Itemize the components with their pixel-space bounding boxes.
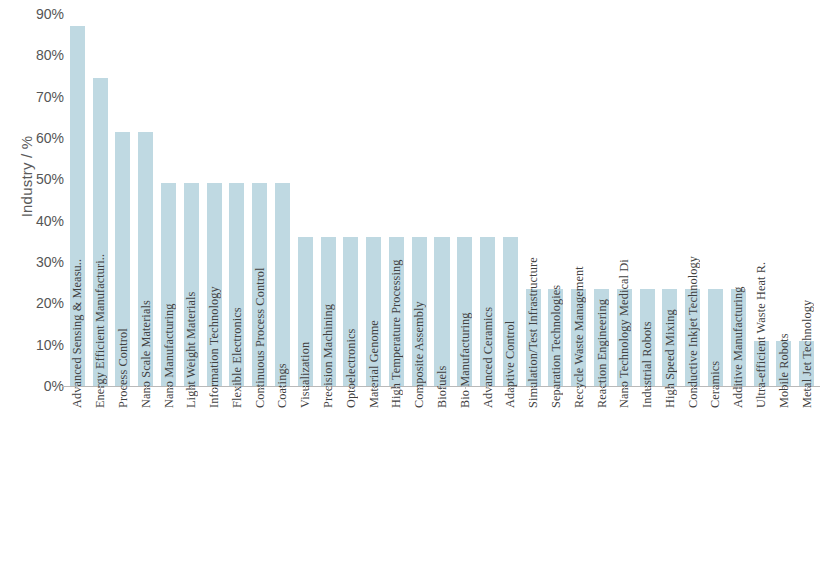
bar [275,183,290,386]
x-axis-tick-label: Visualization [297,392,313,408]
x-axis-tick-label: Recycle Waste Management [571,392,587,408]
bar-chart: Industry / % 90%80%70%60%50%40%30%20%10%… [0,0,824,566]
y-axis-tick-label: 80% [36,47,64,63]
x-axis-tick-label: Advanced Sensing & Measu.. [69,392,85,408]
x-axis-tick-mark [282,386,283,389]
x-axis-tick-mark [77,386,78,389]
y-axis-tick-label: 90% [36,6,64,22]
x-axis-tick-mark [761,386,762,389]
x-axis-tick-label: Continuous Process Control [252,392,268,408]
x-axis-tick-label: Biofuels [434,392,450,408]
x-axis-tick-mark [488,386,489,389]
x-axis-tick-label: Simulation/Test Infrastructure [525,392,541,408]
bar-series [66,14,818,386]
x-axis-tick-mark [169,386,170,389]
x-axis-tick-mark [807,386,808,389]
x-axis-tick-label: Bio Manufacturing [457,392,473,408]
x-axis-tick-label: Coatings [274,392,290,408]
x-axis-tick-mark [465,386,466,389]
x-axis-tick-label: Reaction Engineering [594,392,610,408]
x-axis-tick-label: Advanced Ceramics [480,392,496,408]
x-axis-tick-mark [556,386,557,389]
x-axis-tick-label: Metal Jet Technology [799,392,815,408]
x-axis-tick-label: Precision Machining [320,392,336,408]
x-axis-tick-label: Flexible Electronics [229,392,245,408]
x-axis-tick-label: Optoelectronics [343,392,359,408]
x-axis-tick-label: High Speed Mixing [662,392,678,408]
x-axis-tick-mark [260,386,261,389]
x-axis-tick-mark [191,386,192,389]
y-axis-tick-label: 60% [36,130,64,146]
y-axis-tick-label: 70% [36,89,64,105]
x-axis-tick-label: Industrial Robots [639,392,655,408]
x-axis-tick-label: Mobile Robots [776,392,792,408]
x-axis-tick-label: Additive Manufacturing [730,392,746,408]
x-axis-tick-mark [374,386,375,389]
x-axis-tick-mark [328,386,329,389]
x-axis-tick-label: Adaptive Control [502,392,518,408]
x-axis-tick-mark [693,386,694,389]
x-axis-tick-mark [579,386,580,389]
x-axis-tick-label: Nano Technology Medical Di [616,392,632,408]
x-axis-tick-mark [624,386,625,389]
x-axis-tick-mark [602,386,603,389]
y-axis-tick-label: 0% [44,378,64,394]
x-axis-tick-mark [533,386,534,389]
x-axis-tick-mark [419,386,420,389]
x-axis-tick-mark [738,386,739,389]
x-axis-tick-label: High Temperature Processing [388,392,404,408]
x-axis-tick-mark [396,386,397,389]
y-axis-tick-label: 30% [36,254,64,270]
x-axis-tick-mark [146,386,147,389]
y-axis-tick-label: 20% [36,295,64,311]
bar [434,237,449,386]
x-axis-tick-mark [442,386,443,389]
x-axis-tick-label: Energy Efficient Manufacturi.. [92,392,108,408]
x-axis-tick-label: Nano Scale Materials [138,392,154,408]
x-axis-tick-label: Process Control [115,392,131,408]
x-axis-tick-mark [351,386,352,389]
x-axis-tick-mark [647,386,648,389]
x-axis-tick-mark [237,386,238,389]
y-axis-tick-label: 40% [36,213,64,229]
x-axis-tick-labels: Advanced Sensing & Measu..Energy Efficie… [66,392,818,566]
y-axis-tick-label: 10% [36,337,64,353]
x-axis-tick-mark [123,386,124,389]
x-axis-tick-label: Material Genome [366,392,382,408]
x-axis-tick-mark [305,386,306,389]
x-axis-tick-label: Conductive Inkjet Technology [685,392,701,408]
x-axis-tick-label: Separation Technologies [548,392,564,408]
x-axis-tick-mark [214,386,215,389]
x-axis-tick-mark [715,386,716,389]
x-axis-tick-mark [784,386,785,389]
x-axis-tick-label: Ultra-efficient Waste Heat R. [753,392,769,408]
y-axis-tick-label: 50% [36,171,64,187]
x-axis-tick-label: Information Technology [206,392,222,408]
y-axis-tick-labels: 90%80%70%60%50%40%30%20%10%0% [26,0,64,400]
x-axis-tick-label: Ceramics [707,392,723,408]
x-axis-tick-label: Light Weight Materials [183,392,199,408]
x-axis-tick-mark [510,386,511,389]
x-axis-tick-mark [100,386,101,389]
x-axis-tick-label: Nano Manufacturing [161,392,177,408]
x-axis-tick-mark [670,386,671,389]
x-axis-tick-label: Composite Assembly [411,392,427,408]
